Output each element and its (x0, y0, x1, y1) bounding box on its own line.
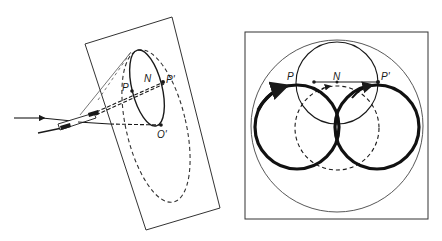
point-p-prime (376, 80, 380, 84)
point-p (130, 89, 134, 93)
point-p-prime (161, 80, 165, 84)
ray-to-o-prime-solid (78, 122, 110, 124)
label-p-prime: P' (166, 74, 176, 85)
label-n: N (333, 71, 341, 82)
point-p (312, 80, 316, 84)
point-o-prime (159, 123, 163, 127)
diagram-figure: P N P' O' P N P' (0, 0, 442, 241)
thick-circle-right (335, 85, 419, 169)
label-p: P (122, 82, 129, 93)
label-n: N (144, 73, 152, 84)
outer-circle (251, 40, 423, 212)
label-p-prime: P' (381, 71, 391, 82)
probe-tube (38, 110, 99, 133)
left-panel: P N P' O' (14, 17, 220, 230)
right-panel: P N P' (245, 32, 428, 219)
incoming-beam-tail (42, 118, 72, 121)
label-o-prime: O' (157, 129, 168, 140)
label-p: P (287, 71, 294, 82)
solid-ellipse (123, 47, 171, 130)
ray-to-o-prime-dashed (110, 124, 161, 125)
dashed-circle (295, 86, 379, 170)
